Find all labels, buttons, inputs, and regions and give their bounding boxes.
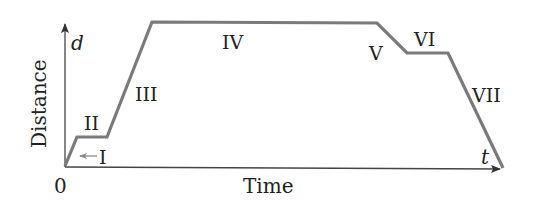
segment-label-iii: III [135,83,158,105]
segment-label-ii: II [84,112,99,134]
x-axis [65,167,500,169]
segment-label-i: I [99,146,107,168]
y-axis-symbol-d: d [71,31,84,55]
y-axis-title: Distance [27,59,51,148]
x-axis-symbol-t: t [481,145,490,169]
origin-label: 0 [54,174,67,198]
segment-label-vi: VI [413,28,435,50]
segment-label-v: V [368,42,383,64]
x-axis-title: Time [243,174,294,198]
distance-time-graph: I II III IV V VI VII d t 0 Time Distance [0,0,534,211]
segment-label-vii: VII [471,84,501,106]
distance-time-line [65,22,503,168]
segment-label-iv: IV [222,31,244,53]
